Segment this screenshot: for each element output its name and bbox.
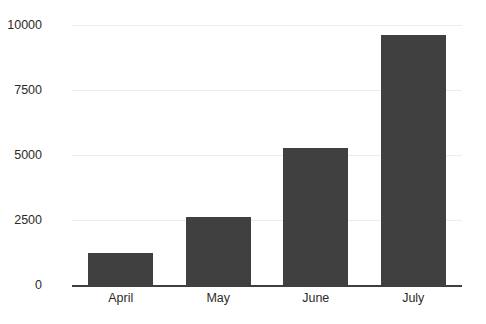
y-axis-tick-label: 7500 (0, 84, 42, 97)
bar-chart: 10000 7500 5000 2500 0 AprilMayJuneJuly (0, 0, 486, 324)
y-axis-tick-label: 10000 (0, 19, 42, 32)
x-axis-line (72, 285, 462, 287)
y-axis-tick-label: 2500 (0, 214, 42, 227)
gridline-10000 (72, 25, 462, 26)
plot-area: 10000 7500 5000 2500 0 (72, 25, 462, 285)
x-axis-tick-label: April (108, 292, 133, 305)
bar (186, 217, 251, 285)
x-axis-tick-label: July (402, 292, 424, 305)
x-axis-tick-label: May (206, 292, 230, 305)
bar (88, 253, 153, 285)
y-axis-tick-label: 0 (0, 279, 42, 292)
bar (283, 148, 348, 285)
x-axis-tick-label: June (302, 292, 329, 305)
bar (381, 35, 446, 285)
y-axis-tick-label: 5000 (0, 149, 42, 162)
